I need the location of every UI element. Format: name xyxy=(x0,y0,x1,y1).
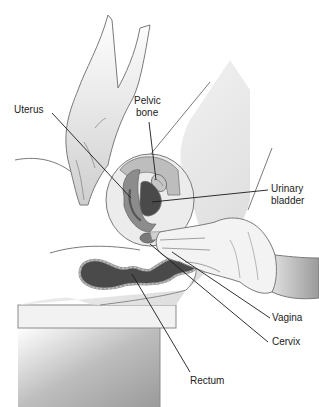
label-cervix: Cervix xyxy=(272,336,300,347)
exam-table xyxy=(18,305,176,407)
label-rectum: Rectum xyxy=(190,375,224,386)
label-pelvic-bone-line1: Pelvic xyxy=(134,95,161,106)
label-uterus: Uterus xyxy=(14,104,43,115)
label-vagina: Vagina xyxy=(272,312,302,323)
gloved-hand xyxy=(156,218,319,299)
label-urinary-bladder-line2: bladder xyxy=(271,195,304,206)
label-pelvic-bone-line2: bone xyxy=(136,107,158,118)
label-urinary-bladder-line1: Urinary xyxy=(271,183,303,194)
pelvic-exam-illustration: Uterus Pelvic bone Urinary bladder Vagin… xyxy=(0,0,319,407)
